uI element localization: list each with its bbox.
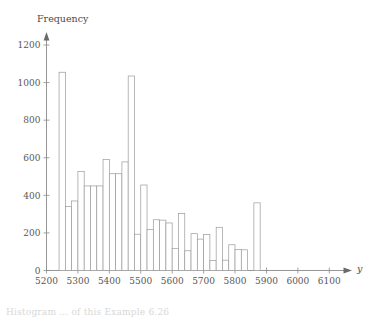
x-axis-arrow-icon — [344, 268, 353, 274]
y-axis-tick-label: 400 — [23, 191, 40, 201]
histogram-bar — [103, 160, 109, 271]
x-axis-tick-label: 6000 — [286, 276, 309, 286]
y-axis-tick-label: 600 — [23, 153, 40, 163]
histogram-bar — [128, 76, 134, 270]
histogram-bar — [78, 171, 84, 270]
y-axis-group: 020040060080010001200 — [18, 32, 50, 276]
histogram-bar — [160, 220, 166, 270]
y-axis-arrow-icon — [44, 32, 50, 41]
histogram-bar — [172, 248, 178, 270]
histogram-bar — [134, 234, 140, 270]
x-axis-tick-label: 5400 — [98, 276, 121, 286]
histogram-bar — [166, 223, 172, 271]
histogram-bar — [178, 214, 184, 271]
histogram-bar — [204, 234, 210, 270]
histogram-bar — [229, 245, 235, 271]
histogram-bar — [147, 230, 153, 271]
y-axis-tick-label: 800 — [23, 115, 40, 125]
histogram-bar — [216, 227, 222, 270]
histogram-bar — [141, 185, 147, 271]
histogram-bar — [109, 174, 115, 271]
x-axis-label: y — [356, 263, 363, 274]
histogram-bar — [254, 203, 260, 271]
histogram-bar — [84, 186, 90, 271]
y-axis-tick-label: 200 — [23, 228, 40, 238]
x-axis-tick-label: 5200 — [35, 276, 58, 286]
histogram-bar — [97, 186, 103, 271]
x-axis-tick-label: 5600 — [161, 276, 184, 286]
x-axis-tick-label: 5800 — [224, 276, 247, 286]
histogram-bar — [235, 249, 241, 270]
x-axis-tick-label: 5900 — [255, 276, 278, 286]
histogram-bar — [116, 174, 122, 271]
histogram-bar — [197, 239, 203, 270]
histogram-bar — [185, 251, 191, 271]
histogram-bar — [222, 260, 228, 270]
y-axis-tick-labels: 020040060080010001200 — [18, 40, 41, 276]
x-axis-tick-label: 5300 — [66, 276, 89, 286]
histogram-bar — [65, 207, 71, 271]
y-axis-tick-label: 0 — [35, 266, 41, 276]
histogram-bar — [59, 72, 65, 270]
y-axis-tick-label: 1000 — [18, 78, 41, 88]
y-axis-tick-label: 1200 — [18, 40, 41, 50]
x-axis-tick-label: 5700 — [192, 276, 215, 286]
histogram-bar — [90, 186, 96, 271]
y-axis-label: Frequency — [37, 13, 89, 24]
histogram-bar — [122, 162, 128, 271]
x-axis-tick-label: 6100 — [318, 276, 341, 286]
figure-caption: Histogram ... of this Example 6.26 — [6, 307, 169, 317]
x-axis-tick-label: 5500 — [129, 276, 152, 286]
histogram-bar — [241, 250, 247, 271]
histogram-bar — [153, 220, 159, 271]
histogram-bars — [59, 72, 260, 270]
x-axis-tick-labels: 5200530054005500560057005800590060006100 — [35, 276, 341, 286]
histogram-bar — [210, 261, 216, 271]
histogram-bar — [72, 201, 78, 271]
histogram-bar — [191, 234, 197, 271]
